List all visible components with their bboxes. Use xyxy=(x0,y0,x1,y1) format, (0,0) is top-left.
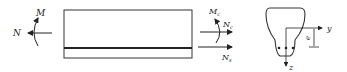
beam-elevation xyxy=(64,10,192,58)
moment-m-arrow xyxy=(34,18,38,46)
right-end-forces: Mc Nc Ns xyxy=(198,7,233,63)
axial-label: N xyxy=(12,28,22,38)
y-axis-label: y xyxy=(326,24,332,33)
eccentricity-label: e xyxy=(304,36,312,40)
axial-nc-label: Nc xyxy=(222,20,233,30)
rebar-dot xyxy=(292,47,295,50)
rebar-dot xyxy=(278,47,281,50)
moment-mc-arrow xyxy=(215,19,220,43)
beam-section-diagram: M N Mc Nc Ns y z e xyxy=(0,0,347,72)
cross-section: y z e xyxy=(266,8,332,72)
left-end-forces: M N xyxy=(12,8,52,46)
moment-label: M xyxy=(35,8,46,18)
moment-mc-label: Mc xyxy=(208,7,220,17)
z-axis-label: z xyxy=(288,63,294,72)
axial-ns-label: Ns xyxy=(221,53,232,63)
